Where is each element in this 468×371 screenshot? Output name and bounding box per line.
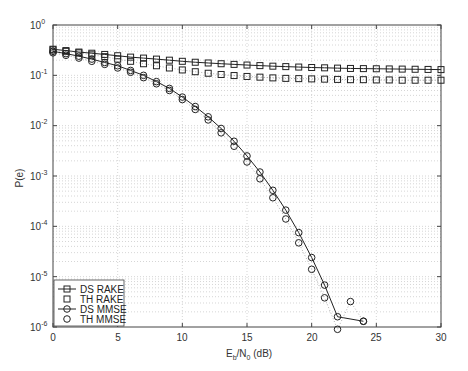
x-axis-label: Eb/N0 (dB) — [226, 348, 272, 361]
svg-text:10-4: 10-4 — [30, 219, 47, 232]
svg-text:10-3: 10-3 — [30, 169, 47, 182]
svg-text:15: 15 — [241, 332, 253, 343]
svg-text:10: 10 — [176, 332, 188, 343]
y-tick-labels: 100 10-1 10-2 10-3 10-4 10-5 10-6 — [30, 18, 47, 333]
svg-text:TH MMSE: TH MMSE — [80, 314, 126, 325]
svg-text:10-5: 10-5 — [30, 270, 47, 283]
svg-text:25: 25 — [370, 332, 382, 343]
svg-text:5: 5 — [115, 332, 121, 343]
svg-text:10-6: 10-6 — [30, 320, 47, 333]
legend: DS RAKE TH RAKE DS MMSE TH MMSE — [54, 280, 127, 326]
svg-text:0: 0 — [50, 332, 56, 343]
svg-text:100: 100 — [30, 18, 45, 31]
svg-text:30: 30 — [435, 332, 447, 343]
series-ds-rake — [50, 46, 444, 72]
svg-text:10-2: 10-2 — [30, 118, 47, 131]
y-axis-label: P(e) — [14, 169, 25, 188]
svg-text:20: 20 — [306, 332, 318, 343]
svg-text:10-1: 10-1 — [30, 68, 47, 81]
x-tick-labels: 0 5 10 15 20 25 30 — [50, 332, 447, 343]
ber-chart: 100 10-1 10-2 10-3 10-4 10-5 10-6 0 5 10… — [0, 0, 468, 371]
